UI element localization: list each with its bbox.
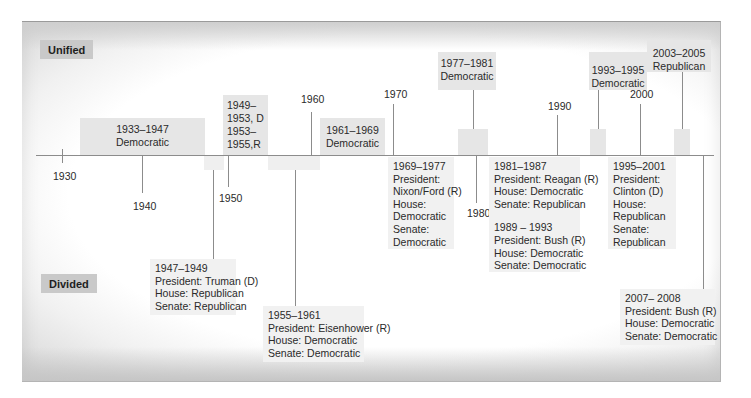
period-years: 1947–1949 — [155, 262, 231, 275]
period-years: 1977–1981 — [438, 57, 496, 70]
year-label-1980: 1980 — [467, 207, 490, 219]
period-years: 1955–1961 — [268, 309, 359, 322]
connector-line — [473, 90, 474, 129]
period-party: Republican — [647, 60, 711, 73]
year-label-1940: 1940 — [133, 200, 156, 212]
year-label-1960: 1960 — [301, 93, 324, 105]
connector-line — [213, 170, 214, 260]
unified-period-1977-1981: 1977–1981 Democratic — [438, 57, 496, 83]
unified-period-marker — [458, 129, 488, 155]
period-years: 1993–1995 — [589, 64, 647, 77]
tick-2000 — [640, 104, 641, 156]
period-president-label: President: — [613, 173, 671, 186]
period-house: House: Democratic — [494, 247, 575, 260]
period-years: 1995–2001 — [613, 160, 671, 173]
period-senate: Senate: Democratic — [268, 347, 359, 360]
period-years: 1949– — [227, 99, 264, 112]
period-senate: Senate: Democratic — [494, 259, 575, 272]
tick-1960 — [311, 112, 312, 156]
period-president: President: Reagan (R) — [494, 173, 575, 186]
divided-period-1947-1949: 1947–1949 President: Truman (D) House: R… — [150, 259, 236, 315]
period-president: President: Bush (R) — [625, 305, 710, 318]
divided-label: Divided — [41, 274, 97, 293]
period-years: 1981–1987 — [494, 160, 575, 173]
period-senate: Republican — [613, 236, 671, 249]
period-party: Democratic — [438, 70, 496, 83]
unified-period-marker — [674, 129, 690, 155]
divided-period-2007-2008: 2007– 2008 President: Bush (R) House: De… — [620, 289, 715, 345]
unified-label: Unified — [40, 40, 93, 59]
period-party: Democratic — [589, 77, 647, 90]
period-house-label: House: — [393, 198, 449, 211]
period-party: Democratic — [320, 137, 385, 150]
unified-period-1961-1969: 1961–1969 Democratic — [320, 124, 385, 150]
period-house: Republican — [613, 210, 671, 223]
period-senate: Senate: Democratic — [625, 330, 710, 343]
year-label-1990: 1990 — [548, 100, 571, 112]
period-house: House: Democratic — [494, 185, 575, 198]
period-party: 1953, D — [227, 112, 264, 125]
period-house: Democratic — [393, 210, 449, 223]
unified-period-1933-1947: 1933–1947 Democratic — [80, 123, 205, 149]
divided-period-marker — [204, 156, 224, 170]
year-label-1930: 1930 — [53, 170, 76, 182]
divided-period-1969-1977: 1969–1977 President: Nixon/Ford (R) Hous… — [388, 157, 454, 249]
period-president: President: Truman (D) — [155, 275, 231, 288]
unified-period-1993-1995: 1993–1995 Democratic — [589, 64, 647, 90]
period-years: 2003–2005 — [647, 47, 711, 60]
timeline-axis — [36, 155, 714, 156]
unified-period-1949-1955: 1949– 1953, D 1953– 1955,R — [227, 99, 264, 151]
tick-1990 — [557, 115, 558, 156]
period-years: 1989 – 1993 — [494, 221, 575, 234]
unified-period-marker — [590, 129, 606, 155]
unified-period-2003-2005: 2003–2005 Republican — [647, 47, 711, 73]
connector-line — [703, 156, 704, 289]
divided-period-1981-1993: 1981–1987 President: Reagan (R) House: D… — [489, 157, 580, 272]
period-senate-label: Senate: — [613, 223, 671, 236]
year-label-1950: 1950 — [219, 192, 242, 204]
connector-line — [682, 72, 683, 129]
period-years: 1953– — [227, 125, 264, 138]
divided-period-marker — [268, 156, 320, 170]
divided-period-1955-1961: 1955–1961 President: Eisenhower (R) Hous… — [263, 306, 364, 362]
period-senate-label: Senate: — [393, 223, 449, 236]
connector-line — [598, 90, 599, 129]
period-party: Democratic — [80, 136, 205, 149]
period-years: 1961–1969 — [320, 124, 385, 137]
divided-period-1995-2001: 1995–2001 President: Clinton (D) House: … — [608, 157, 676, 249]
tick-1980 — [476, 156, 477, 203]
period-president: Nixon/Ford (R) — [393, 185, 449, 198]
period-house: House: Democratic — [625, 317, 710, 330]
tick-1930 — [62, 149, 63, 163]
period-house: House: Democratic — [268, 334, 359, 347]
period-senate: Democratic — [393, 236, 449, 249]
connector-line — [295, 170, 296, 306]
period-house-label: House: — [613, 198, 671, 211]
period-senate: Senate: Republican — [155, 300, 231, 313]
period-years: 2007– 2008 — [625, 292, 710, 305]
period-president-label: President: — [393, 173, 449, 186]
period-president: Clinton (D) — [613, 185, 671, 198]
period-party: 1955,R — [227, 138, 264, 151]
period-years: 1933–1947 — [80, 123, 205, 136]
period-president: President: Bush (R) — [494, 234, 575, 247]
year-label-1970: 1970 — [384, 88, 407, 100]
period-house: House: Republican — [155, 287, 231, 300]
period-president: President: Eisenhower (R) — [268, 322, 359, 335]
tick-1970 — [393, 104, 394, 156]
period-senate: Senate: Republican — [494, 198, 575, 211]
period-years: 1969–1977 — [393, 160, 449, 173]
tick-1940 — [142, 156, 143, 193]
tick-1950 — [228, 156, 229, 187]
